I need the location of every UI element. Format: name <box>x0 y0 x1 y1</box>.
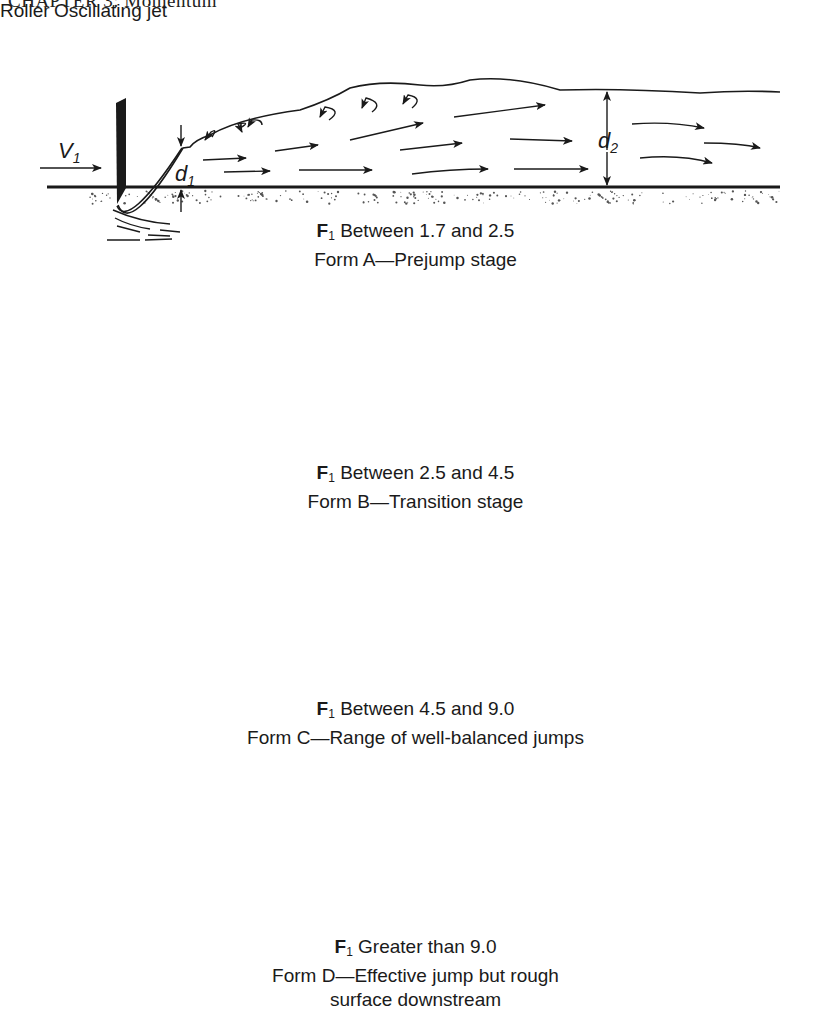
form-label-b: Form B—Transition stage <box>0 490 831 514</box>
stipple-dot <box>752 197 753 198</box>
stipple-dot <box>331 193 332 194</box>
froude-range: Between 4.5 and 9.0 <box>340 698 514 719</box>
stipple-dot <box>553 195 555 197</box>
stipple-dot <box>407 202 408 203</box>
stipple-dot <box>755 200 757 202</box>
stipple-dot <box>520 191 522 193</box>
stipple-dot <box>558 199 560 201</box>
d1-label: d1 <box>175 161 195 189</box>
stipple-dot <box>744 194 746 196</box>
stipple-dot <box>414 197 416 199</box>
stipple-dot <box>662 193 663 194</box>
stipple-dot <box>435 199 436 200</box>
form-label-d-line1: Form D—Effective jump but rough <box>0 964 831 988</box>
froude-line-d: F1 Greater than 9.0 <box>0 935 831 964</box>
stipple-dot <box>524 195 525 196</box>
stipple-dot <box>545 202 546 203</box>
stipple-dot <box>155 200 156 201</box>
stipple-dot <box>400 196 401 197</box>
froude-subscript: 1 <box>328 707 335 721</box>
stipple-dot <box>748 194 750 196</box>
stipple-dot <box>592 191 594 193</box>
stipple-dot <box>368 201 370 203</box>
stipple-dot <box>590 195 591 196</box>
stipple-dot <box>623 195 624 196</box>
stipple-dot <box>259 192 260 193</box>
stipple-dot <box>563 198 564 199</box>
stipple-dot <box>432 196 434 198</box>
stipple-dot <box>374 199 376 201</box>
stipple-dot <box>779 191 780 192</box>
stipple-dot <box>529 199 530 200</box>
stipple-dot <box>280 195 281 196</box>
stipple-dot <box>275 200 277 202</box>
stipple-dot <box>375 195 377 197</box>
stipple-dot <box>100 201 101 202</box>
stipple-dot <box>513 198 514 199</box>
stipple-dot <box>95 196 97 198</box>
stipple-dot <box>175 192 176 193</box>
stipple-dot <box>318 191 319 192</box>
froude-subscript: 1 <box>346 945 353 959</box>
stipple-dot <box>542 197 543 198</box>
stipple-dot <box>245 197 247 199</box>
stipple-dot <box>540 192 541 193</box>
stipple-dot <box>633 199 635 201</box>
stipple-dot <box>717 197 718 198</box>
stipple-dot <box>710 192 712 194</box>
stipple-dot <box>392 195 394 197</box>
stipple-dot <box>616 200 618 202</box>
stipple-dot <box>549 200 550 201</box>
stipple-dot <box>184 193 185 194</box>
stipple-dot <box>762 193 763 194</box>
stipple-dot <box>393 191 396 194</box>
stipple-dot <box>299 190 301 192</box>
stipple-dot <box>725 193 726 194</box>
stipple-dot <box>771 196 774 199</box>
stipple-dot <box>480 192 482 194</box>
stipple-dot <box>711 197 713 199</box>
caption-d: F1 Greater than 9.0 Form D—Effective jum… <box>0 935 831 1012</box>
stipple-dot <box>192 195 193 196</box>
stipple-dot <box>557 203 558 204</box>
stipple-dot <box>335 195 337 197</box>
stipple-dot <box>123 202 126 205</box>
stipple-dot <box>410 193 412 195</box>
ground-stipple <box>89 190 779 205</box>
stipple-dot <box>482 194 483 195</box>
stipple-dot <box>493 192 495 194</box>
stipple-dot <box>599 194 601 196</box>
stipple-dot <box>267 199 268 200</box>
stipple-dot <box>423 191 424 192</box>
froude-subscript: 1 <box>328 229 335 243</box>
stipple-dot <box>476 194 478 196</box>
stipple-dot <box>196 199 198 201</box>
stipple-dot <box>472 199 474 201</box>
stipple-dot <box>211 191 212 192</box>
stipple-dot <box>405 202 407 204</box>
stipple-dot <box>252 199 253 200</box>
stipple-dot <box>327 193 329 195</box>
stipple-dot <box>708 194 709 195</box>
stipple-dot <box>554 191 556 193</box>
water-surface <box>117 148 182 211</box>
caption-b: F1 Between 2.5 and 4.5 Form B—Transition… <box>0 461 831 514</box>
stipple-dot <box>543 191 545 193</box>
stipple-dot <box>699 196 700 197</box>
stipple-dot <box>159 202 160 203</box>
froude-symbol: F <box>335 936 347 957</box>
stipple-dot <box>478 199 480 201</box>
stipple-dot <box>321 197 323 199</box>
stipple-dot <box>483 202 484 203</box>
stipple-dot <box>250 200 251 201</box>
stipple-dot <box>291 199 293 201</box>
froude-range: Greater than 9.0 <box>358 936 496 957</box>
stipple-dot <box>732 190 734 192</box>
stipple-dot <box>757 202 758 203</box>
stipple-dot <box>612 198 614 200</box>
stipple-dot <box>441 191 443 193</box>
stipple-dot <box>489 199 491 201</box>
stipple-dot <box>102 193 103 194</box>
stipple-dot <box>208 197 210 199</box>
stipple-dot <box>769 196 770 197</box>
